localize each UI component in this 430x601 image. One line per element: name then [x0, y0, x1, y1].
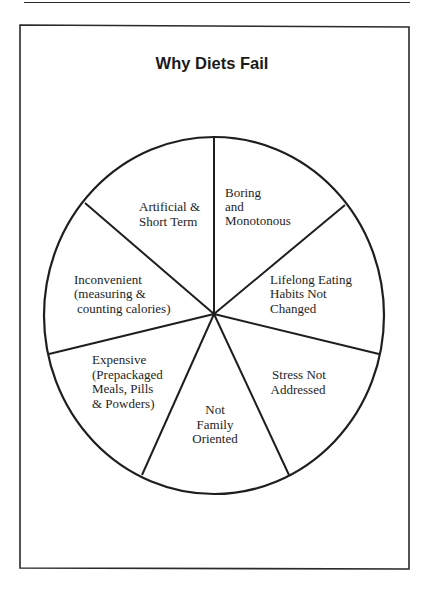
segment-label-line: & Powders) — [92, 396, 154, 411]
spoke-left — [49, 314, 214, 354]
segment-label-line: counting calories) — [77, 301, 171, 316]
spoke-right — [214, 314, 379, 354]
segment-label-line: Expensive — [92, 352, 146, 367]
page: Why Diets Fail Boring and Monotonous Lif… — [0, 0, 430, 601]
segment-inconvenient: Inconvenient (measuring & counting calor… — [74, 272, 171, 316]
segment-label-line: (Prepackaged — [92, 367, 163, 382]
segment-expensive: Expensive (Prepackaged Meals, Pills & Po… — [92, 352, 163, 411]
segment-family: Not Family Oriented — [192, 402, 238, 446]
segment-boring: Boring and Monotonous — [225, 185, 291, 228]
segment-label-line: Artificial & — [139, 199, 200, 214]
segment-label-line: Not — [205, 402, 225, 417]
segment-label-line: Changed — [270, 301, 317, 316]
segment-label-line: Stress Not — [272, 367, 326, 382]
segment-label-line: Inconvenient — [74, 272, 142, 287]
segment-label-line: Lifelong Eating — [270, 272, 352, 287]
segment-label-line: Short Term — [139, 214, 197, 229]
segment-label-line: Family — [197, 417, 234, 432]
segment-label-line: Oriented — [192, 431, 238, 446]
segment-label-line: (measuring & — [74, 286, 146, 301]
segment-stress: Stress Not Addressed — [271, 367, 327, 397]
segment-label-line: Meals, Pills — [92, 381, 153, 396]
segment-artificial: Artificial & Short Term — [139, 199, 200, 229]
diagram-title: Why Diets Fail — [156, 54, 269, 72]
segment-label-line: and — [225, 199, 244, 214]
segment-label-line: Addressed — [271, 382, 326, 397]
why-diets-fail-diagram: Why Diets Fail Boring and Monotonous Lif… — [0, 0, 430, 601]
segment-label-line: Monotonous — [225, 213, 291, 228]
segment-label-line: Boring — [225, 185, 262, 200]
segment-lifelong: Lifelong Eating Habits Not Changed — [270, 272, 352, 316]
segment-label-line: Habits Not — [270, 286, 327, 301]
